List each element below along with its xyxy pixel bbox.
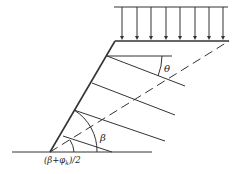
beta-label: β xyxy=(99,132,106,143)
slope-diagram: θ β (β+φk)/2 xyxy=(0,0,247,174)
half-angle-label: (β+φk)/2 xyxy=(44,155,81,166)
slip-line-3 xyxy=(74,110,165,141)
slip-line-2 xyxy=(92,83,175,115)
half-angle-arc xyxy=(70,140,74,152)
slip-line-1 xyxy=(107,56,185,86)
theta-label: θ xyxy=(164,63,170,74)
load-arrows xyxy=(122,7,223,38)
theta-arc xyxy=(158,56,162,76)
dashed-failure-plane xyxy=(50,41,229,152)
arrowheads xyxy=(120,36,225,40)
